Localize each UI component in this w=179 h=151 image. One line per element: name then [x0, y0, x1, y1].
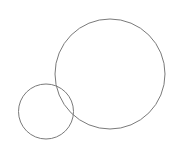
- small-circle: [19, 84, 74, 139]
- diagram-canvas: [0, 0, 179, 151]
- large-circle: [55, 19, 165, 129]
- circles-diagram: [0, 0, 179, 151]
